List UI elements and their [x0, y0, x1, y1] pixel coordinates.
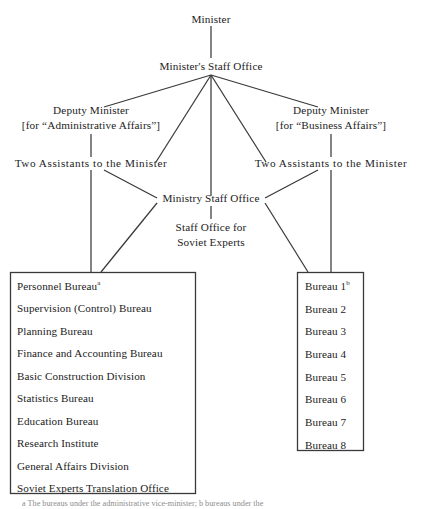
list-item: Bureau 7 [305, 417, 359, 428]
node-deputy-minister-administrative: Deputy Minister [for “Administrative Aff… [11, 103, 171, 132]
list-item: General Affairs Division [17, 461, 189, 472]
node-deputy-minister-business: Deputy Minister [for “Business Affairs”] [251, 103, 411, 132]
footnote-text: a The bureaus under the administrative v… [22, 499, 402, 509]
line-assistants-right-to-ministry-office [265, 170, 318, 198]
node-assistants-business-label: Two Assistants to the Minister [255, 157, 407, 169]
list-item: Bureau 3 [305, 326, 359, 337]
left-box-item-label: Basic Construction Division [17, 370, 145, 382]
node-deputy-minister-business-scope: [for “Business Affairs”] [251, 118, 411, 133]
node-soviet-experts-staff-office-line1: Staff Office for [176, 221, 247, 233]
node-minister-staff-office-label: Minister's Staff Office [159, 60, 262, 72]
list-item: Research Institute [17, 438, 189, 449]
footnote-marker-a: a [97, 279, 100, 287]
left-box-item-label: Supervision (Control) Bureau [17, 302, 152, 314]
list-item: Basic Construction Division [17, 371, 189, 382]
right-box-item-label: Bureau 3 [305, 325, 346, 337]
list-item: Supervision (Control) Bureau [17, 303, 189, 314]
list-item: Finance and Accounting Bureau [17, 348, 189, 359]
line-assistants-left-to-ministry-office [104, 170, 157, 198]
node-deputy-minister-business-label: Deputy Minister [293, 104, 369, 116]
right-box-item-label: Bureau 7 [305, 416, 346, 428]
list-item: Personnel Bureaua [17, 281, 189, 292]
node-minister-label: Minister [191, 13, 230, 25]
node-minister-staff-office: Minister's Staff Office [141, 59, 281, 74]
list-item: Bureau 5 [305, 372, 359, 383]
list-item: Education Bureau [17, 416, 189, 427]
right-box-item-label: Bureau 2 [305, 303, 346, 315]
list-item: Soviet Experts Translation Office [17, 483, 189, 494]
list-item: Bureau 1b [305, 281, 359, 292]
left-box-item-label: Statistics Bureau [17, 392, 94, 404]
left-box-item-label: Finance and Accounting Bureau [17, 347, 163, 359]
node-assistants-business: Two Assistants to the Minister [242, 156, 420, 171]
right-box-item-label: Bureau 4 [305, 348, 346, 360]
node-minister: Minister [161, 12, 261, 27]
node-deputy-minister-administrative-scope: [for “Administrative Affairs”] [11, 118, 171, 133]
node-soviet-experts-staff-office-line2: Soviet Experts [151, 235, 271, 250]
list-item: Bureau 2 [305, 304, 359, 315]
node-assistants-administrative: Two Assistants to the Minister [2, 156, 180, 171]
left-box-item-label: Education Bureau [17, 415, 98, 427]
list-item: Bureau 4 [305, 349, 359, 360]
list-item: Bureau 8 [305, 440, 359, 451]
left-box-item-list: Personnel Bureaua Supervision (Control) … [17, 281, 189, 506]
node-soviet-experts-staff-office: Staff Office for Soviet Experts [151, 220, 271, 249]
node-ministry-staff-office-label: Ministry Staff Office [162, 192, 259, 204]
left-box-item-label: Planning Bureau [17, 325, 93, 337]
left-box-item-label: Research Institute [17, 437, 99, 449]
left-box-item-label: Soviet Experts Translation Office [17, 482, 169, 494]
node-deputy-minister-administrative-label: Deputy Minister [53, 104, 129, 116]
footnote-marker-b: b [346, 279, 350, 287]
right-box-item-label: Bureau 6 [305, 393, 346, 405]
right-box-item-list: Bureau 1b Bureau 2 Bureau 3 Bureau 4 Bur… [305, 281, 359, 463]
right-box-item-label: Bureau 1 [305, 280, 346, 292]
node-ministry-staff-office: Ministry Staff Office [151, 191, 271, 206]
line-ministry-office-to-left-box [101, 203, 157, 272]
list-item: Bureau 6 [305, 394, 359, 405]
node-assistants-administrative-label: Two Assistants to the Minister [15, 157, 167, 169]
right-box-item-label: Bureau 5 [305, 371, 346, 383]
list-item: Planning Bureau [17, 326, 189, 337]
left-box-item-label: General Affairs Division [17, 460, 129, 472]
list-item: Statistics Bureau [17, 393, 189, 404]
right-box-item-label: Bureau 8 [305, 439, 346, 451]
line-ministry-office-to-right-box [265, 203, 308, 272]
left-box-item-label: Personnel Bureau [17, 280, 97, 292]
